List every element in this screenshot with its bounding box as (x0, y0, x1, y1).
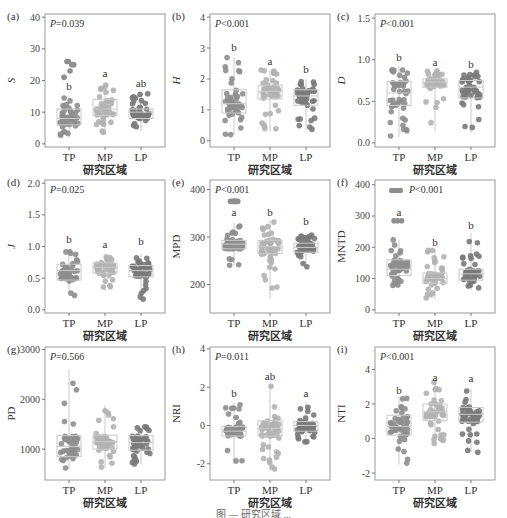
x-axis-label: 研究区域 (83, 163, 127, 176)
data-point (296, 252, 302, 258)
y-tick-label: 400 (355, 179, 370, 190)
y-tick-label: 1.5 (28, 209, 41, 220)
y-tick-label: 0.5 (28, 273, 41, 284)
data-point (224, 425, 230, 431)
y-tick-label: 2 (200, 382, 205, 393)
data-point (74, 103, 80, 109)
data-point (273, 126, 279, 132)
data-point (441, 254, 447, 260)
x-tick-label: LP (300, 484, 313, 496)
data-point (298, 99, 304, 105)
significance-letter: a (433, 371, 438, 383)
data-point (393, 281, 399, 287)
data-point (104, 446, 110, 452)
data-point (431, 441, 437, 447)
data-point (236, 262, 242, 268)
significance-letter: b (267, 206, 273, 218)
p-value: P=0.039 (49, 18, 84, 29)
data-point (98, 459, 104, 465)
data-point (471, 277, 477, 283)
x-tick-label: LP (465, 317, 478, 329)
x-axis-label: 研究区域 (413, 163, 457, 176)
p-value: P=0.011 (214, 351, 249, 362)
significance-letter: a (433, 56, 438, 68)
data-point (434, 286, 440, 292)
data-point (105, 410, 111, 416)
x-tick-label: TP (63, 317, 76, 329)
significance-letter: b (66, 233, 72, 245)
data-point (233, 415, 239, 421)
y-axis-label: MPD (170, 235, 182, 259)
data-point (311, 82, 317, 88)
x-tick-label: MP (97, 151, 113, 163)
data-point (96, 418, 102, 424)
data-point (130, 101, 136, 107)
y-tick-label: -2 (362, 468, 370, 479)
data-point (238, 117, 244, 123)
data-point (390, 67, 396, 73)
data-point (431, 255, 437, 261)
data-point (237, 69, 243, 75)
data-point (73, 252, 79, 258)
data-point (476, 104, 482, 110)
data-point (70, 446, 76, 452)
data-point (272, 404, 278, 410)
data-point (231, 429, 237, 435)
x-tick-label: MP (427, 151, 443, 163)
data-point (263, 77, 269, 83)
p-value: P<0.001 (214, 18, 249, 29)
data-point (466, 87, 472, 93)
data-point (476, 285, 482, 291)
data-point (295, 435, 301, 441)
group-tp: b (57, 59, 81, 138)
data-point (224, 55, 230, 61)
y-tick-label: 2.0 (28, 178, 41, 189)
panel-label: (i) (337, 343, 348, 356)
group-tp: a (222, 199, 246, 269)
x-tick-label: MP (427, 484, 443, 496)
data-point (433, 104, 439, 110)
group-lp: a (459, 372, 483, 455)
data-point (134, 448, 140, 454)
data-point (261, 273, 267, 279)
data-point (261, 92, 267, 98)
data-point (63, 448, 69, 454)
data-point (223, 132, 229, 138)
data-point (401, 449, 407, 455)
figure-grid: (a)010203040SP=0.039bTPaMPabLP研究区域(b)012… (0, 0, 507, 518)
data-point (423, 295, 429, 301)
significance-letter: b (468, 219, 474, 231)
data-point (271, 432, 277, 438)
data-point (62, 419, 68, 425)
data-point (296, 422, 302, 428)
data-point (434, 71, 440, 77)
data-point (262, 123, 268, 129)
y-tick-label: 300 (190, 232, 205, 243)
group-mp: b (423, 236, 447, 301)
data-point (477, 92, 483, 98)
data-point (467, 432, 473, 438)
significance-letter: b (231, 41, 237, 53)
data-point (274, 284, 280, 290)
data-point (138, 290, 144, 296)
group-lp: a (294, 387, 318, 445)
x-tick-label: LP (135, 151, 148, 163)
data-point (137, 428, 143, 434)
data-point (435, 427, 441, 433)
data-point (431, 397, 437, 403)
data-point (68, 251, 74, 257)
y-tick-label: 4 (200, 343, 205, 354)
data-point (303, 235, 309, 241)
x-tick-label: TP (393, 151, 406, 163)
y-axis-label: D (335, 76, 347, 85)
y-tick-label: 4 (365, 364, 370, 375)
y-axis-label: S (5, 77, 17, 83)
data-point (461, 102, 467, 108)
data-point (404, 128, 410, 134)
group-tp: a (387, 206, 411, 288)
group-lp: b (294, 215, 318, 269)
data-point (267, 111, 273, 117)
data-point (405, 70, 411, 76)
data-point (109, 269, 115, 275)
data-point (392, 242, 398, 248)
